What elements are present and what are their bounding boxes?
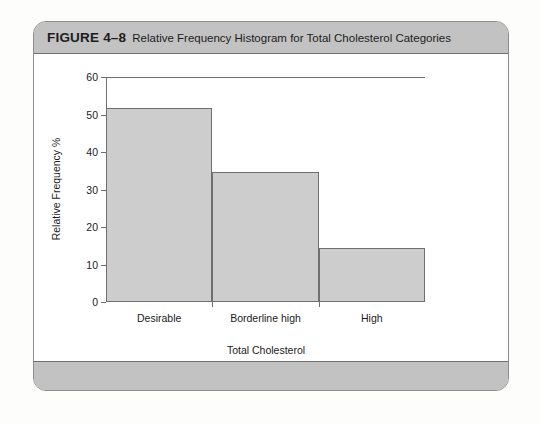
y-tick-label: 60 [86, 71, 98, 83]
figure-number: FIGURE 4–8 [47, 30, 126, 45]
x-axis-spine [106, 301, 425, 302]
x-category-label: Desirable [137, 312, 181, 324]
histogram-chart: Relative Frequency % Total Cholesterol 0… [34, 55, 508, 360]
figure-body: Relative Frequency % Total Cholesterol 0… [34, 55, 508, 360]
y-tick-label: 10 [86, 259, 98, 271]
figure-header: FIGURE 4–8 Relative Frequency Histogram … [34, 22, 508, 54]
histogram-bar [212, 172, 318, 301]
x-category-label: Borderline high [230, 312, 301, 324]
plot-top-border [106, 77, 425, 78]
plot-area: 0102030405060 DesirableBorderline highHi… [106, 77, 425, 302]
x-category-label: High [361, 312, 383, 324]
figure-caption: Relative Frequency Histogram for Total C… [132, 32, 451, 44]
figure-footer [34, 361, 508, 390]
y-tick-label: 0 [92, 296, 98, 308]
histogram-bar [106, 108, 212, 301]
x-tick [212, 302, 213, 307]
y-tick-label: 20 [86, 221, 98, 233]
y-axis-title: Relative Frequency % [50, 138, 62, 241]
y-tick-label: 30 [86, 184, 98, 196]
y-tick [101, 302, 106, 303]
x-axis-title: Total Cholesterol [227, 344, 305, 356]
y-tick [101, 77, 106, 78]
y-tick-label: 50 [86, 109, 98, 121]
y-tick-label: 40 [86, 146, 98, 158]
x-tick [319, 302, 320, 307]
figure-card: FIGURE 4–8 Relative Frequency Histogram … [33, 21, 509, 391]
histogram-bar [319, 248, 425, 301]
